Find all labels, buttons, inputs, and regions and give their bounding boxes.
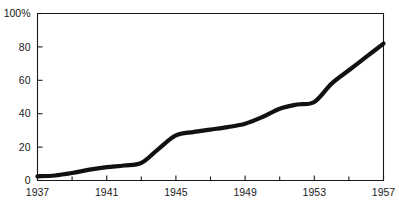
x-tick-label-1949: 1949 bbox=[233, 186, 257, 198]
y-tick-label-40: 40 bbox=[19, 107, 31, 119]
axis-frame bbox=[38, 14, 384, 181]
y-tick-label-20: 20 bbox=[19, 141, 31, 153]
x-tick-label-1953: 1953 bbox=[303, 186, 327, 198]
y-axis-tick-labels: 020406080100% bbox=[4, 7, 31, 186]
chart-axes bbox=[38, 14, 384, 181]
chart-container: 020406080100% 193719411945194919531957 bbox=[0, 0, 399, 209]
x-axis-tick-labels: 193719411945194919531957 bbox=[26, 186, 396, 198]
y-tick-label-0: 0 bbox=[25, 174, 31, 186]
x-axis-ticks bbox=[38, 176, 384, 181]
x-tick-label-1945: 1945 bbox=[164, 186, 188, 198]
y-tick-label-80: 80 bbox=[19, 41, 31, 53]
y-tick-label-100: 100% bbox=[4, 7, 31, 19]
x-tick-label-1937: 1937 bbox=[26, 186, 50, 198]
line-chart: 020406080100% 193719411945194919531957 bbox=[0, 0, 399, 209]
data-series-line bbox=[38, 44, 384, 177]
y-axis-ticks bbox=[38, 14, 43, 181]
x-tick-label-1941: 1941 bbox=[95, 186, 119, 198]
y-tick-label-60: 60 bbox=[19, 74, 31, 86]
x-tick-label-1957: 1957 bbox=[372, 186, 396, 198]
